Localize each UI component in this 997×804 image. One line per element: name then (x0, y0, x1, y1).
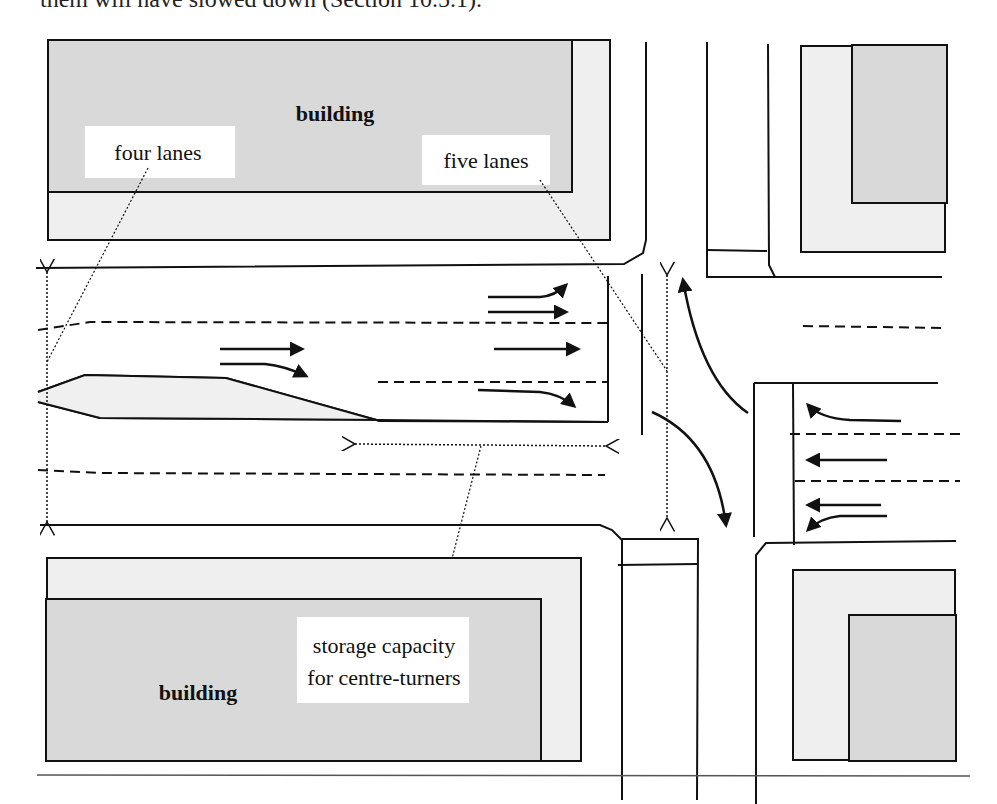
building-top-label: building (296, 101, 374, 126)
building-bottom-label: building (159, 680, 237, 705)
bottom-rule (37, 775, 970, 776)
centre-turn-arrow-south (652, 412, 726, 525)
lot-top-right (801, 45, 947, 252)
lot-bottom-right (793, 570, 956, 761)
eastbound-turn-arrow (808, 516, 887, 530)
centre-turn-arrow-north (683, 280, 748, 413)
building-top-right (852, 45, 947, 203)
storage-label-line1: storage capacity (313, 633, 455, 658)
right-turn-arrow-2 (478, 390, 574, 406)
storage-label-box (297, 617, 469, 703)
storage-label-line2: for centre-turners (307, 665, 460, 690)
median-island (38, 375, 380, 421)
right-turn-arrow (220, 364, 306, 376)
five-lanes-label: five lanes (444, 148, 529, 173)
four-lanes-label: four lanes (114, 140, 201, 165)
eastbound-left-arrow (808, 405, 901, 421)
storage-dimension-arrow (355, 444, 606, 446)
building-bottom-right (849, 615, 956, 761)
left-turn-arrow (488, 285, 566, 297)
intersection-diagram: building four lanes five lanes (0, 0, 997, 804)
